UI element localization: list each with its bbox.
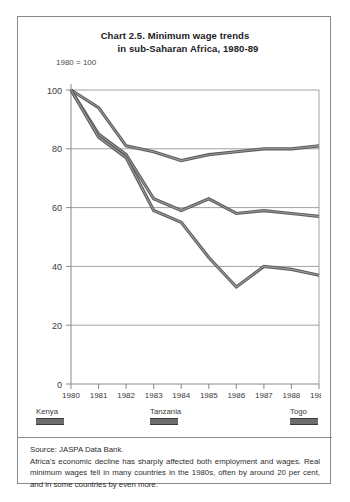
legend-swatch-kenya [36,418,64,425]
x-tick-1982: 1982 [117,391,135,398]
plot-area: 1980 = 100 [36,58,321,398]
chart-title-line-2: in sub-Saharan Africa, 1980-89 [18,42,332,55]
legend-swatch-togo [290,418,318,425]
line-chart-svg: 100 80 60 40 20 0 1980 [36,58,321,398]
legend-item-kenya[interactable]: Kenya [36,407,64,425]
legend-label-kenya: Kenya [36,407,64,416]
series-line-tanzania [71,90,319,216]
y-tick-80: 80 [52,144,62,154]
chart-footer: Source: JASPA Data Bank. Africa's econom… [30,444,320,490]
chart-title-line-1: Chart 2.5. Minimum wage trends [101,30,250,41]
y-tick-20: 20 [52,321,62,331]
chart-figure-frame: Chart 2.5. Minimum wage trends in sub-Sa… [17,16,331,484]
series-line-kenya [71,90,319,161]
legend-label-togo: Togo [290,407,318,416]
source-line: Source: JASPA Data Bank. [30,444,320,455]
y-tick-100: 100 [47,86,62,96]
x-tick-1986: 1986 [227,391,245,398]
x-tick-1989: 1989 [310,391,321,398]
legend-label-tanzania: Tanzania [150,407,181,416]
legend-swatch-tanzania [150,418,178,425]
legend-item-tanzania[interactable]: Tanzania [150,407,181,425]
chart-title: Chart 2.5. Minimum wage trends in sub-Sa… [18,29,332,55]
y-axis [66,84,71,384]
chart-legend: Kenya Tanzania Togo [28,407,322,433]
x-tick-1981: 1981 [90,391,108,398]
x-tick-1987: 1987 [255,391,273,398]
x-tick-1988: 1988 [283,391,301,398]
series-lines-group [71,90,319,287]
x-tick-1983: 1983 [145,391,163,398]
x-axis [71,384,319,389]
y-tick-40: 40 [52,262,62,272]
footnote-text: Africa's economic decline has sharply af… [30,456,320,490]
gridlines-group [71,90,319,325]
series-line-tanzania-hi [71,90,319,216]
y-tick-0: 0 [57,380,62,390]
x-tick-1985: 1985 [200,391,218,398]
y-tick-60: 60 [52,203,62,213]
legend-item-togo[interactable]: Togo [290,407,318,425]
footer-divider [18,437,332,438]
x-tick-1980: 1980 [62,391,80,398]
x-axis-tick-labels: 1980 1981 1982 1983 1984 1985 1986 1987 … [62,391,321,398]
x-tick-1984: 1984 [172,391,190,398]
y-axis-tick-labels: 100 80 60 40 20 0 [47,86,62,390]
